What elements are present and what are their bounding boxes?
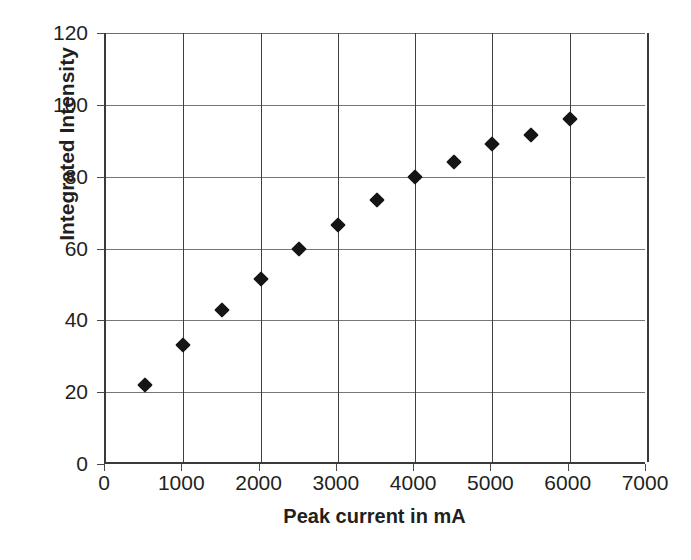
gridline-vertical [415,33,416,462]
y-axis-tick-label: 100 [30,94,88,115]
x-axis-tick-mark [645,464,646,471]
y-axis-tick-label: 20 [30,381,88,402]
gridline-vertical [492,33,493,462]
data-point-marker [253,271,269,287]
data-point-marker [330,217,346,233]
gridline-vertical [338,33,339,462]
data-point-marker [176,338,192,354]
y-axis-tick-mark [97,392,104,393]
y-axis-tick-mark [97,33,104,34]
gridline-vertical [570,33,571,462]
data-point-marker [485,137,501,153]
data-point-marker [562,111,578,127]
x-axis-tick-mark [490,464,491,471]
y-axis-title: Integrated Intensity [55,14,79,274]
x-axis-tick-mark [259,464,260,471]
x-axis-tick-mark [104,464,105,471]
y-axis-tick-mark [97,249,104,250]
data-point-marker [446,155,462,171]
x-axis-title: Peak current in mA [104,505,645,528]
x-axis-tick-label: 7000 [600,472,690,493]
x-axis-tick-mark [181,464,182,471]
y-axis-tick-label: 60 [30,238,88,259]
y-axis-tick-label: 80 [30,166,88,187]
y-axis-tick-mark [97,320,104,321]
gridline-horizontal [106,105,645,106]
y-axis-tick-label: 120 [30,22,88,43]
y-axis-tick-mark [97,177,104,178]
y-axis-tick-mark [97,464,104,465]
gridline-vertical [261,33,262,462]
x-axis-tick-mark [336,464,337,471]
y-axis-tick-label: 40 [30,309,88,330]
y-axis-tick-mark [97,105,104,106]
gridline-horizontal [106,320,645,321]
scatter-chart-figure: Integrated Intensity Peak current in mA … [0,0,691,560]
gridline-horizontal [106,177,645,178]
gridline-horizontal [106,33,645,34]
gridline-vertical [183,33,184,462]
x-axis-tick-mark [568,464,569,471]
data-point-marker [137,377,153,393]
data-point-marker [369,192,385,208]
data-point-marker [407,169,423,185]
data-point-marker [214,302,230,318]
gridline-horizontal [106,249,645,250]
data-point-marker [291,241,307,257]
y-axis-tick-label: 0 [30,453,88,474]
plot-area [104,33,645,464]
gridline-vertical [647,33,649,462]
gridline-horizontal [106,392,645,393]
x-axis-tick-mark [413,464,414,471]
data-point-marker [523,128,539,144]
